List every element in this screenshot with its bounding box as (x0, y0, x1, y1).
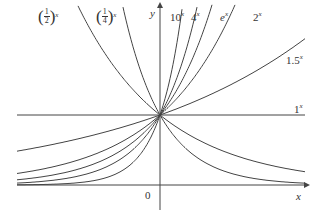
curve-14x (123, 7, 305, 183)
label-half-pow-x: (12)x (38, 8, 58, 25)
y-axis-label: y (150, 8, 155, 19)
label-quarter-pow-x: (14)x (96, 8, 116, 25)
label-e-pow-x: ex (220, 11, 228, 23)
label-4-pow-x: 4x (191, 11, 200, 23)
exponential-functions-chart: y x 0 (12)x (14)x 10x 4x ex 2x 1.5x 1x (0, 0, 318, 215)
plot-area (0, 0, 318, 215)
label-10-pow-x: 10x (170, 11, 184, 23)
label-1.5-pow-x: 1.5x (286, 54, 303, 66)
curve-4x (17, 7, 197, 183)
x-axis-label: x (296, 191, 301, 202)
label-1-pow-x: 1x (294, 103, 303, 115)
curve-10x (17, 9, 182, 185)
curve-2x (17, 5, 235, 174)
origin-label: 0 (145, 190, 151, 201)
label-2-pow-x: 2x (253, 11, 262, 23)
curve-1.5x (17, 39, 305, 152)
y-axis-arrow-icon (157, 2, 163, 8)
